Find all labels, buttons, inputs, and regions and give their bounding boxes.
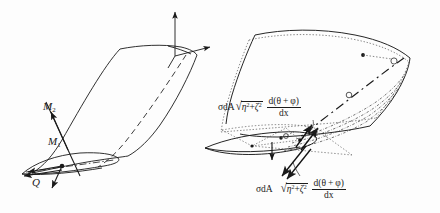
right-wing-surface	[226, 30, 410, 137]
formula-upper-zeta-exponent: 2	[259, 102, 262, 108]
formula-upper-denominator: dx	[277, 108, 291, 119]
formula-lower-radical: √ η2+ζ2	[281, 183, 308, 195]
moment-label-m2-base: M	[43, 100, 52, 112]
formula-lower-numerator: d(θ + φ)	[312, 178, 346, 190]
formula-lower-radicand: η2+ζ2	[286, 183, 308, 195]
formula-lower-zeta-exponent: 2	[304, 184, 307, 190]
formula-lower-radical-sign: √	[281, 182, 287, 196]
shear-label-q: Q	[32, 177, 40, 188]
right-airfoil-section	[205, 132, 317, 155]
left-elastic-axis-dashed	[98, 55, 186, 167]
x-axis-stub	[168, 56, 175, 68]
left-shear-q-arrow	[52, 166, 62, 188]
formula-upper-radical-sign: √	[236, 100, 242, 114]
formula-lower-lead: σdA	[256, 184, 273, 194]
formula-upper-lead: σdA	[218, 102, 235, 112]
moment-label-m1: M1	[48, 136, 61, 149]
section-marker-outer	[391, 58, 397, 64]
section-marker-inner	[284, 134, 289, 139]
figure-canvas: M2 M1 Q σdA √ η2+ζ2 d(θ + φ) dx σdA √ η2…	[0, 0, 440, 213]
formula-upper-radical: √ η2+ζ2	[236, 101, 263, 113]
moment-label-m2-subscript: 2	[52, 106, 55, 113]
moment-label-m1-subscript: 1	[57, 141, 60, 148]
formula-shear-stress-lower: σdA √ η2+ζ2 d(θ + φ) dx	[256, 178, 346, 201]
left-coordinate-axes	[168, 12, 210, 68]
moment-label-m1-base: M	[48, 135, 57, 147]
formula-upper-derivative: d(θ + φ) dx	[267, 96, 301, 119]
section-marker-mid	[346, 92, 352, 98]
formula-upper-numerator: d(θ + φ)	[267, 96, 301, 108]
formula-upper-radicand: η2+ζ2	[241, 101, 263, 113]
moment-label-m2: M2	[43, 101, 56, 114]
formula-shear-stress-upper: σdA √ η2+ζ2 d(θ + φ) dx	[218, 96, 301, 119]
formula-lower-derivative: d(θ + φ) dx	[312, 178, 346, 201]
right-reference-dot	[250, 144, 253, 147]
formula-lower-denominator: dx	[322, 190, 336, 201]
right-elastic-axis-dashdot	[300, 58, 404, 137]
y-axis-arrow	[175, 47, 210, 56]
